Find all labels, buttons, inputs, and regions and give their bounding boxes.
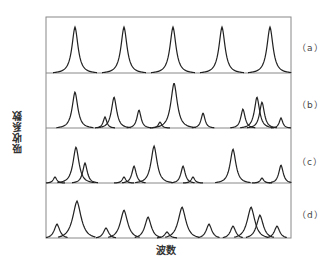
absorption-peak	[198, 224, 220, 238]
absorption-peak	[127, 110, 152, 128]
absorption-peak	[246, 215, 274, 237]
absorption-peak	[165, 207, 199, 237]
absorption-peak	[215, 149, 251, 182]
panel-label-d: （d）	[297, 208, 324, 221]
absorption-peak	[247, 102, 277, 128]
spectra-figure	[0, 0, 331, 270]
y-axis-label: 吸收系数	[12, 110, 26, 154]
absorption-peak	[271, 118, 291, 128]
absorption-peak	[58, 201, 96, 237]
absorption-peak	[223, 226, 243, 237]
absorption-peak	[56, 92, 93, 127]
x-axis-label: 波数	[156, 242, 176, 257]
absorption-peak	[135, 146, 173, 183]
absorption-peak	[108, 210, 140, 237]
absorption-peak	[53, 27, 97, 73]
absorption-peak	[135, 217, 162, 237]
absorption-peak	[152, 84, 196, 128]
absorption-curves	[46, 27, 291, 238]
panel-label-b: （b）	[297, 98, 324, 111]
panel-label-a: （a）	[297, 41, 324, 54]
panel-label-c: （c）	[297, 155, 323, 168]
absorption-peak	[46, 224, 68, 238]
absorption-peak	[200, 27, 244, 73]
absorption-peak	[269, 165, 291, 182]
absorption-peak	[248, 27, 291, 73]
absorption-peak	[102, 27, 146, 73]
absorption-peak	[230, 109, 255, 128]
absorption-peak	[192, 113, 215, 127]
absorption-peak	[151, 27, 195, 73]
absorption-peak	[96, 228, 116, 238]
